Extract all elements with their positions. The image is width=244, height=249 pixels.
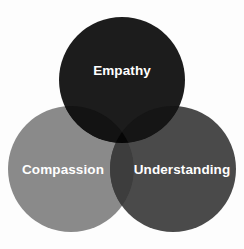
venn-label-empathy: Empathy [93, 63, 151, 78]
venn-label-compassion: Compassion [22, 162, 104, 177]
venn-diagram-canvas: Empathy Compassion Understanding [0, 0, 244, 249]
venn-label-understanding: Understanding [134, 162, 231, 177]
venn-diagram: Empathy Compassion Understanding [0, 0, 244, 249]
